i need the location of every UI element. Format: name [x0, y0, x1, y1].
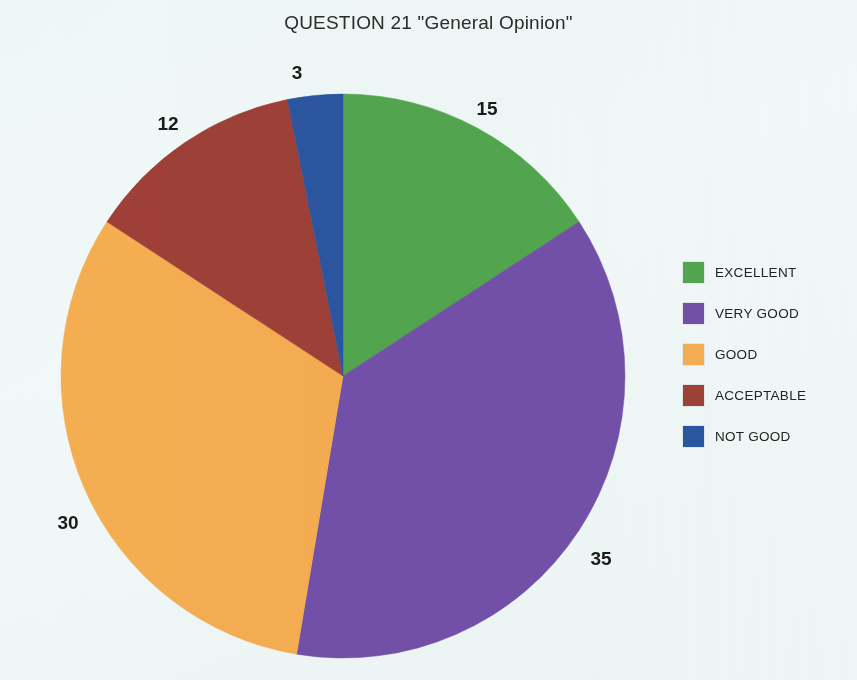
pie-data-label-good: 30 — [57, 512, 78, 534]
legend-label: EXCELLENT — [715, 265, 796, 280]
pie-data-label-very-good: 35 — [590, 548, 611, 570]
legend-item-not-good[interactable]: NOT GOOD — [683, 416, 843, 457]
pie-data-label-acceptable: 12 — [157, 113, 178, 135]
legend-item-excellent[interactable]: EXCELLENT — [683, 252, 843, 293]
legend-label: NOT GOOD — [715, 429, 791, 444]
legend-label: GOOD — [715, 347, 757, 362]
legend-color-swatch — [683, 344, 704, 365]
pie-data-label-excellent: 15 — [476, 98, 497, 120]
pie-slice-group — [61, 94, 625, 658]
legend-color-swatch — [683, 262, 704, 283]
chart-legend: EXCELLENTVERY GOODGOODACCEPTABLENOT GOOD — [683, 252, 843, 457]
legend-item-acceptable[interactable]: ACCEPTABLE — [683, 375, 843, 416]
legend-color-swatch — [683, 426, 704, 447]
pie-data-label-not-good: 3 — [292, 62, 303, 84]
legend-label: ACCEPTABLE — [715, 388, 806, 403]
legend-label: VERY GOOD — [715, 306, 799, 321]
legend-item-very-good[interactable]: VERY GOOD — [683, 293, 843, 334]
legend-color-swatch — [683, 303, 704, 324]
legend-item-good[interactable]: GOOD — [683, 334, 843, 375]
pie-chart-figure: QUESTION 21 "General Opinion" 153530123 … — [0, 0, 857, 680]
legend-color-swatch — [683, 385, 704, 406]
